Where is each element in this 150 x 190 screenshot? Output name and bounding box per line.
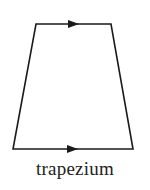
shape-caption: trapezium — [0, 158, 150, 180]
parallel-arrow-icon-top — [68, 20, 79, 28]
trapezium-shape — [13, 24, 133, 149]
parallel-arrow-icon-bottom — [67, 145, 78, 153]
